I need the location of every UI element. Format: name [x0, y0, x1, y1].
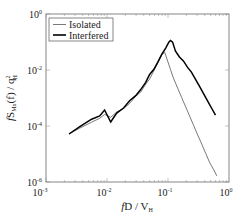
legend-isolated-label: Isolated [69, 19, 101, 30]
x-tick-label: 10-1 [158, 187, 173, 198]
x-tick-label: 10-3 [33, 187, 48, 198]
x-tick-label: 10-2 [97, 187, 112, 198]
x-axis-label: fD / VH [121, 200, 153, 213]
y-tick-label: 100 [29, 9, 42, 20]
x-tick-label: 100 [220, 187, 233, 198]
interfered-line [69, 41, 216, 135]
y-axis-ticks: 100 10-2 10-4 10-6 [27, 9, 42, 188]
isolated-line [69, 52, 217, 176]
y-tick-label: 10-4 [27, 121, 42, 132]
x-axis-ticks: 10-3 10-2 10-1 100 [33, 187, 233, 198]
legend-interfered-label: Interfered [69, 30, 108, 41]
y-axis-label: fSMx(f) / q2H [4, 74, 18, 121]
y-tick-label: 10-2 [27, 65, 42, 76]
spectrum-chart: 100 10-2 10-4 10-6 10-3 10-2 10-1 100 fD… [0, 0, 241, 224]
legend: Isolated Interfered [49, 18, 113, 41]
